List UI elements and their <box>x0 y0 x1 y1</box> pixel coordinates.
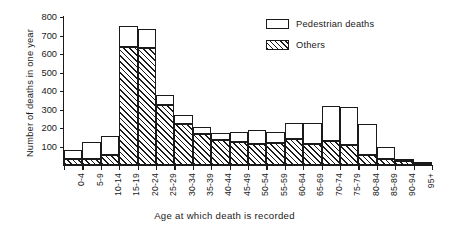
bar-segment-pedestrian-deaths <box>266 132 284 143</box>
bar-segment-pedestrian-deaths <box>303 123 321 143</box>
x-tick-mark <box>138 166 139 170</box>
bar-series-group <box>64 17 432 165</box>
bar-segment-others <box>82 159 100 165</box>
bar-segment-others <box>248 144 266 165</box>
bar-column <box>230 17 248 165</box>
x-tick-label: 20-24 <box>151 173 160 196</box>
x-tick-label: 25-29 <box>169 173 178 196</box>
x-tick-mark <box>303 166 304 170</box>
bar-segment-others <box>414 163 432 165</box>
x-tick-label: 85-89 <box>390 173 399 196</box>
x-tick-label: 90-94 <box>408 173 417 196</box>
bar-column <box>414 17 432 165</box>
x-tick-mark <box>248 166 249 170</box>
x-tick-label: 50-54 <box>261 173 270 196</box>
x-tick-mark <box>156 166 157 170</box>
x-tick-label: 80-84 <box>372 173 381 196</box>
x-tick-label: 75-79 <box>353 173 362 196</box>
x-tick-mark <box>230 166 231 170</box>
x-tick-mark <box>174 166 175 170</box>
bar-segment-others <box>285 139 303 165</box>
bar-segment-pedestrian-deaths <box>211 133 229 140</box>
bar-segment-others <box>174 124 192 165</box>
x-tick-mark <box>64 166 65 170</box>
x-tick-label: 45-49 <box>243 173 252 196</box>
bar-segment-others <box>211 140 229 165</box>
y-tick-label: 400 <box>21 87 64 96</box>
legend-label: Others <box>296 40 325 50</box>
y-tick-label: 700 <box>21 31 64 40</box>
legend-item-others: Others <box>266 37 374 52</box>
bar-segment-pedestrian-deaths <box>119 26 137 46</box>
bar-segment-others <box>64 159 82 165</box>
legend-item-pedestrian-deaths: Pedestrian deaths <box>266 16 374 31</box>
bar-column <box>193 17 211 165</box>
bar-column <box>101 17 119 165</box>
x-tick-mark <box>414 166 415 170</box>
bar-column <box>248 17 266 165</box>
x-tick-label: 15-19 <box>132 173 141 196</box>
bar-segment-others <box>230 142 248 165</box>
y-tick-label: 600 <box>21 50 64 59</box>
bar-column <box>395 17 413 165</box>
y-tick-label: 200 <box>21 124 64 133</box>
x-tick-label: 60-64 <box>298 173 307 196</box>
x-tick-mark <box>358 166 359 170</box>
bar-column <box>64 17 82 165</box>
bar-column <box>119 17 137 165</box>
bar-segment-pedestrian-deaths <box>358 124 376 155</box>
bar-segment-pedestrian-deaths <box>230 132 248 142</box>
bar-segment-pedestrian-deaths <box>340 107 358 145</box>
x-tick-mark <box>322 166 323 170</box>
bar-segment-others <box>303 144 321 165</box>
bar-column <box>138 17 156 165</box>
legend-swatch-hatched-box <box>266 40 289 50</box>
bar-segment-pedestrian-deaths <box>138 29 156 48</box>
x-tick-mark <box>285 166 286 170</box>
bar-segment-others <box>266 143 284 165</box>
bar-segment-others <box>377 159 395 165</box>
x-tick-mark <box>395 166 396 170</box>
x-tick-label: 55-59 <box>280 173 289 196</box>
bar-chart: Number of deaths in one year 10020030040… <box>0 0 449 231</box>
bar-segment-pedestrian-deaths <box>156 95 174 105</box>
bar-segment-others <box>101 155 119 165</box>
x-tick-label: 35-39 <box>206 173 215 196</box>
bar-segment-others <box>119 47 137 165</box>
x-tick-label: 95+ <box>427 173 436 188</box>
x-axis-title: Age at which death is recorded <box>0 210 449 221</box>
y-tick-label: 500 <box>21 68 64 77</box>
x-axis-ticks: 0-45-910-1415-1920-2425-2930-3435-3940-4… <box>64 166 432 208</box>
x-tick-label: 70-74 <box>335 173 344 196</box>
x-tick-mark <box>101 166 102 170</box>
bar-segment-others <box>156 105 174 165</box>
x-tick-mark <box>432 166 433 170</box>
x-tick-mark <box>119 166 120 170</box>
x-tick-label: 65-69 <box>316 173 325 196</box>
y-tick-label: 300 <box>21 105 64 114</box>
bar-segment-pedestrian-deaths <box>174 115 192 124</box>
bar-segment-others <box>395 161 413 165</box>
bar-segment-others <box>138 48 156 165</box>
bar-segment-pedestrian-deaths <box>82 142 100 160</box>
x-tick-label: 5-9 <box>96 173 105 186</box>
x-tick-mark <box>211 166 212 170</box>
bar-segment-pedestrian-deaths <box>101 136 119 155</box>
bar-segment-pedestrian-deaths <box>285 123 303 139</box>
x-tick-mark <box>266 166 267 170</box>
bar-column <box>174 17 192 165</box>
bar-column <box>377 17 395 165</box>
x-tick-label: 0-4 <box>77 173 86 186</box>
bar-segment-pedestrian-deaths <box>322 106 340 141</box>
x-tick-label: 40-44 <box>224 173 233 196</box>
bar-segment-others <box>193 134 211 165</box>
x-tick-mark <box>340 166 341 170</box>
chart-legend: Pedestrian deaths Others <box>266 16 374 58</box>
bar-segment-pedestrian-deaths <box>64 150 82 159</box>
x-tick-mark <box>82 166 83 170</box>
y-tick-label: 800 <box>21 13 64 22</box>
bar-column <box>82 17 100 165</box>
bar-segment-others <box>340 145 358 165</box>
x-tick-label: 30-34 <box>188 173 197 196</box>
legend-swatch-white-box <box>266 19 289 29</box>
